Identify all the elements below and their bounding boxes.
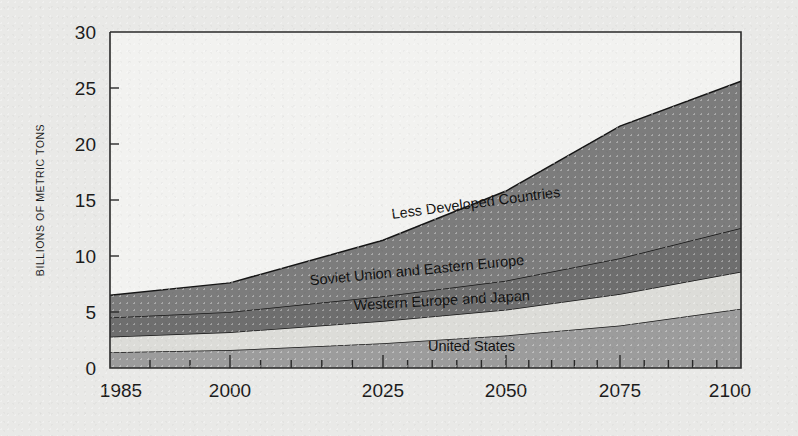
x-tick-label: 2075 bbox=[599, 380, 641, 401]
stacked-area-chart: 051015202530 198520002025205020752100 BI… bbox=[0, 0, 798, 436]
y-tick-label: 10 bbox=[75, 246, 96, 267]
y-axis-tick-labels: 051015202530 bbox=[75, 22, 96, 379]
y-axis-title: BILLIONS OF METRIC TONS bbox=[34, 124, 46, 276]
x-tick-label: 1985 bbox=[100, 380, 142, 401]
x-tick-label: 2050 bbox=[485, 380, 527, 401]
x-tick-label: 2000 bbox=[209, 380, 251, 401]
y-tick-label: 25 bbox=[75, 78, 96, 99]
y-tick-label: 20 bbox=[75, 134, 96, 155]
y-tick-label: 30 bbox=[75, 22, 96, 43]
chart-container: 051015202530 198520002025205020752100 BI… bbox=[0, 0, 798, 436]
y-tick-label: 0 bbox=[85, 358, 96, 379]
series-label-united-states: United States bbox=[428, 338, 515, 354]
x-axis-tick-labels: 198520002025205020752100 bbox=[100, 380, 751, 401]
x-tick-label: 2025 bbox=[362, 380, 404, 401]
x-tick-label: 2100 bbox=[709, 380, 751, 401]
y-tick-label: 15 bbox=[75, 190, 96, 211]
y-tick-label: 5 bbox=[85, 302, 96, 323]
